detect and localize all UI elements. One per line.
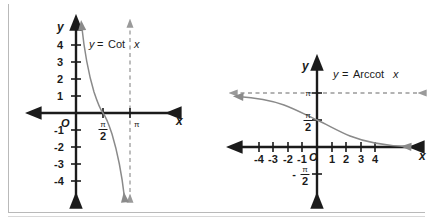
arccotangent-graph-panel: y x O -4 -3 -2 -1 1 2 3 4 π π 2 - π (216, 0, 433, 223)
x-tick-label-neg4: -4 (254, 153, 265, 165)
x-tick-label-pi: π (134, 120, 140, 129)
arccotangent-curve (238, 97, 406, 147)
pi-half-denominator: 2 (100, 130, 106, 142)
equation-var: x (133, 38, 140, 50)
equation-label-cot: y = Cot x (88, 38, 140, 50)
neg-pi-half-sign: - (292, 168, 296, 180)
neg-pi-half-denominator: 2 (302, 175, 308, 187)
pi-half-numerator: π (305, 111, 311, 120)
y-tick-label-neg-pi-over-2: - π 2 (292, 165, 309, 187)
y-axis-label: y (56, 20, 65, 34)
x-axis-label: x (175, 114, 184, 128)
y-axis-label: y (301, 59, 310, 73)
y-tick-label-1: 1 (57, 90, 63, 102)
origin-label: O (309, 151, 318, 163)
x-tick-label-pi-over-2: π 2 (99, 120, 108, 142)
x-tick-label-2: 2 (343, 153, 349, 165)
arccotangent-svg: y x O -4 -3 -2 -1 1 2 3 4 π π 2 - π (216, 0, 433, 223)
x-tick-label-3: 3 (358, 153, 364, 165)
y-tick-label-neg1: -1 (54, 124, 64, 136)
equation-equals: = (342, 68, 348, 80)
equation-var: x (392, 68, 399, 80)
x-tick-label-neg1: -1 (297, 153, 307, 165)
y-tick-label-neg4: -4 (54, 175, 65, 187)
x-tick-label-1: 1 (329, 153, 335, 165)
equation-y: y (332, 68, 340, 80)
equation-y: y (88, 38, 96, 50)
equation-name: Arccot (353, 68, 384, 80)
x-tick-label-neg3: -3 (268, 153, 278, 165)
x-tick-label-neg2: -2 (283, 153, 293, 165)
y-tick-label-2: 2 (57, 73, 63, 85)
cotangent-svg: y x O 4 3 2 1 -1 -2 -3 -4 π 2 π y = Cot (0, 0, 216, 223)
cotangent-graph-panel: y x O 4 3 2 1 -1 -2 -3 -4 π 2 π y = Cot (0, 0, 216, 223)
pi-half-numerator: π (100, 120, 106, 129)
y-tick-label-pi: π (305, 89, 311, 98)
equation-name: Cot (108, 38, 125, 50)
y-tick-label-3: 3 (57, 56, 63, 68)
equation-label-arccot: y = Arccot x (332, 68, 399, 80)
figure-root: y x O 4 3 2 1 -1 -2 -3 -4 π 2 π y = Cot (0, 0, 433, 223)
x-tick-label-4: 4 (372, 153, 379, 165)
y-tick-label-4: 4 (57, 39, 64, 51)
x-axis-label: x (418, 149, 427, 163)
neg-pi-half-numerator: π (302, 165, 308, 174)
pi-half-denominator: 2 (305, 121, 311, 133)
y-tick-label-pi-over-2: π 2 (304, 111, 313, 133)
equation-equals: = (97, 38, 103, 50)
y-tick-label-neg2: -2 (54, 141, 64, 153)
y-tick-label-neg3: -3 (54, 158, 64, 170)
